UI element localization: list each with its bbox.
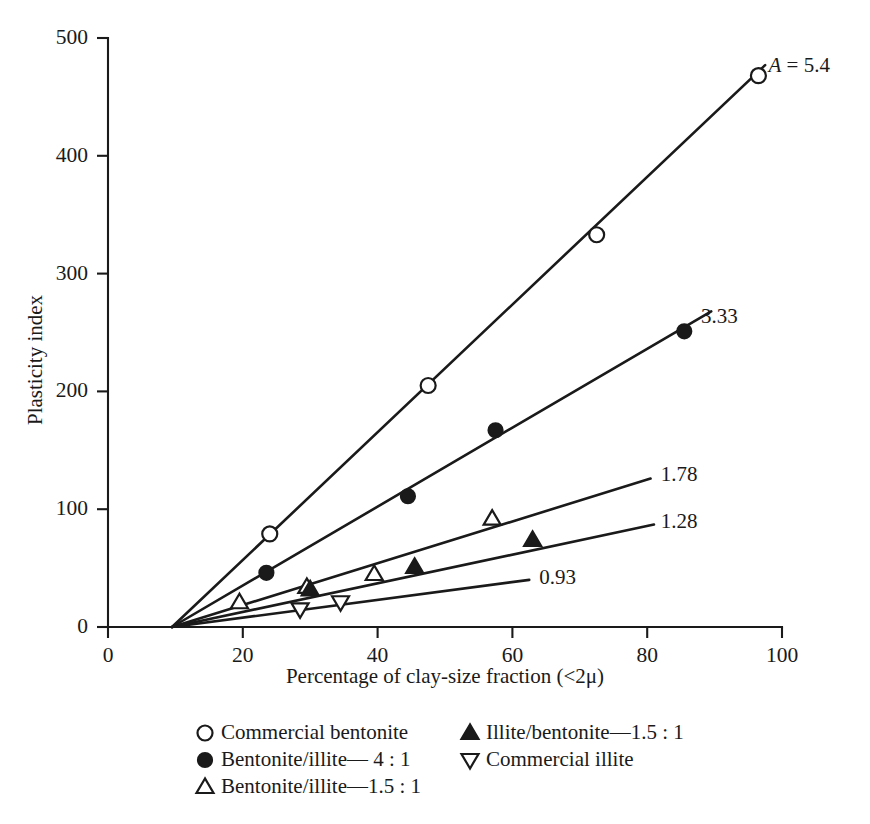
data-point <box>489 423 503 437</box>
legend-label: Illite/bentonite—1.5 : 1 <box>486 720 684 744</box>
legend-marker <box>198 753 212 767</box>
series-line <box>172 580 529 627</box>
legend-marker <box>462 725 479 740</box>
legend-marker <box>198 726 213 741</box>
series-activity-label: 3.33 <box>701 304 738 328</box>
legend-item: Bentonite/illite— 4 : 1 <box>198 747 411 771</box>
series-activity-label: A = 5.4 <box>767 53 831 77</box>
series-line <box>172 311 711 627</box>
data-point <box>262 526 277 541</box>
series-activity-label: 1.78 <box>661 462 698 486</box>
series-activity-label: 0.93 <box>539 565 576 589</box>
data-point <box>589 227 604 242</box>
series-markers-group <box>231 68 766 618</box>
y-axis-ticks: 0100200300400500 <box>56 25 108 638</box>
legend-item: Bentonite/illite—1.5 : 1 <box>197 774 422 798</box>
x-axis-title: Percentage of clay-size fraction (<2μ) <box>286 664 604 688</box>
x-tick-label: 80 <box>636 643 658 667</box>
data-point <box>406 558 423 573</box>
x-tick-label: 0 <box>103 643 114 667</box>
data-point <box>259 566 273 580</box>
y-axis-title: Plasticity index <box>23 294 47 425</box>
legend-item: Commercial bentonite <box>198 720 409 744</box>
legend-label: Bentonite/illite—1.5 : 1 <box>221 774 421 798</box>
data-point <box>421 378 436 393</box>
figure-container: 0100200300400500 020406080100 A = 5.43.3… <box>0 0 870 824</box>
legend-label: Commercial bentonite <box>221 720 408 744</box>
legend: Commercial bentoniteBentonite/illite— 4 … <box>197 720 684 798</box>
legend-marker <box>462 754 479 769</box>
x-tick-label: 100 <box>766 643 798 667</box>
y-tick-label: 400 <box>56 143 88 167</box>
series-line <box>172 525 654 627</box>
legend-label: Commercial illite <box>486 747 634 771</box>
data-point <box>366 565 383 580</box>
x-axis-ticks: 020406080100 <box>103 627 799 667</box>
series-annotations-group: A = 5.43.331.781.280.93 <box>539 53 830 588</box>
y-tick-label: 0 <box>77 614 88 638</box>
y-tick-label: 300 <box>56 261 88 285</box>
y-tick-label: 500 <box>56 25 88 49</box>
legend-label: Bentonite/illite— 4 : 1 <box>221 747 411 771</box>
data-point <box>524 531 541 546</box>
series-activity-label: 1.28 <box>661 509 698 533</box>
data-point <box>484 510 501 525</box>
series-line <box>172 65 765 627</box>
x-tick-label: 20 <box>232 643 254 667</box>
data-point <box>677 324 691 338</box>
data-point <box>751 68 766 83</box>
legend-item: Commercial illite <box>462 747 634 771</box>
data-point <box>231 594 248 609</box>
plasticity-index-activity-chart: 0100200300400500 020406080100 A = 5.43.3… <box>0 0 870 824</box>
legend-marker <box>197 779 214 794</box>
legend-item: Illite/bentonite—1.5 : 1 <box>462 720 684 744</box>
series-lines-group <box>172 65 765 627</box>
data-point <box>401 489 415 503</box>
y-tick-label: 100 <box>56 496 88 520</box>
y-tick-label: 200 <box>56 378 88 402</box>
